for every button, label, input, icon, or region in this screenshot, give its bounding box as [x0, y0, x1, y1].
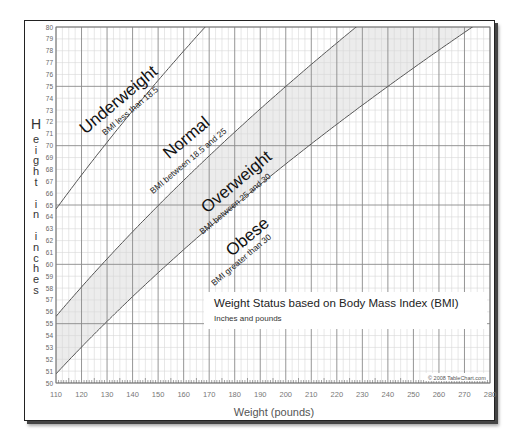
x-tick-label: 250: [407, 390, 420, 399]
x-tick-label: 260: [433, 390, 446, 399]
y-tick-label: 70: [46, 142, 54, 149]
y-tick-label: 61: [46, 249, 54, 256]
x-tick-label: 150: [152, 390, 165, 399]
y-tick-label: 51: [46, 368, 54, 375]
y-axis-label-letter: n: [31, 208, 41, 220]
x-tick-label: 230: [356, 390, 369, 399]
y-tick-label: 64: [46, 213, 54, 220]
y-tick-label: 65: [46, 202, 54, 209]
y-tick-label: 76: [46, 71, 54, 78]
y-tick-label: 53: [46, 344, 54, 351]
x-axis-label: Weight (pounds): [234, 406, 315, 418]
x-tick-label: 180: [228, 390, 241, 399]
y-tick-label: 77: [46, 59, 54, 66]
x-tick-label: 170: [203, 390, 216, 399]
x-tick-label: 190: [254, 390, 267, 399]
bmi-chart: 1101201301401501601701801902002102202302…: [0, 0, 525, 448]
y-tick-label: 69: [46, 154, 54, 161]
x-tick-label: 160: [177, 390, 190, 399]
y-tick-label: 68: [46, 166, 54, 173]
y-tick-label: 78: [46, 47, 54, 54]
x-tick-label: 240: [382, 390, 395, 399]
x-tick-label: 200: [280, 390, 293, 399]
x-tick-label: 270: [458, 390, 471, 399]
y-axis-label-letter: H: [31, 116, 41, 132]
x-tick-label: 210: [305, 390, 318, 399]
y-tick-label: 58: [46, 285, 54, 292]
y-tick-label: 62: [46, 237, 54, 244]
y-tick-label: 50: [46, 380, 54, 387]
chart-title: Weight Status based on Body Mass Index (…: [214, 297, 459, 309]
y-tick-label: 73: [46, 107, 54, 114]
y-tick-label: 80: [46, 24, 54, 31]
y-tick-label: 54: [46, 332, 54, 339]
y-tick-label: 52: [46, 356, 54, 363]
y-tick-label: 57: [46, 296, 54, 303]
y-tick-label: 72: [46, 118, 54, 125]
copyright-text: © 2008 TableChart.com: [428, 375, 486, 381]
x-tick-label: 280: [484, 390, 497, 399]
y-tick-label: 74: [46, 95, 54, 102]
y-tick-label: 56: [46, 308, 54, 315]
x-tick-label: 140: [126, 390, 139, 399]
y-tick-label: 66: [46, 190, 54, 197]
chart-subtitle: Inches and pounds: [214, 314, 282, 323]
y-tick-label: 55: [46, 320, 54, 327]
y-tick-label: 60: [46, 261, 54, 268]
x-tick-label: 110: [50, 390, 62, 399]
y-axis-label-letter: s: [31, 284, 41, 296]
y-tick-label: 71: [46, 130, 54, 137]
y-axis-label-letter: t: [31, 176, 41, 188]
y-tick-label: 59: [46, 273, 54, 280]
y-tick-label: 75: [46, 83, 54, 90]
y-tick-label: 79: [46, 35, 54, 42]
x-tick-label: 120: [75, 390, 88, 399]
y-tick-label: 63: [46, 225, 54, 232]
x-tick-label: 130: [101, 390, 114, 399]
x-tick-label: 220: [331, 390, 344, 399]
y-tick-label: 67: [46, 178, 54, 185]
